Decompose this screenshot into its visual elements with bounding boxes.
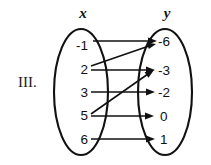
range-node--3: -3 <box>158 63 170 78</box>
mapping-diagram-canvas: III. x y <box>0 0 211 165</box>
range-node-values: -6 -3 -2 0 1 <box>158 34 170 147</box>
arrow-5-to-0 <box>91 113 154 120</box>
domain-header-x: x <box>78 5 87 21</box>
domain-node--1: -1 <box>76 38 88 53</box>
domain-node-6: 6 <box>80 132 88 147</box>
mapping-diagram: III. x y <box>0 0 211 165</box>
mapping-arrows <box>91 38 157 143</box>
domain-node-values: -1 2 3 5 6 <box>76 38 88 147</box>
domain-node-5: 5 <box>80 108 88 123</box>
range-node--6: -6 <box>158 34 170 49</box>
domain-node-3: 3 <box>80 85 88 100</box>
range-node--2: -2 <box>158 85 170 100</box>
range-header-y: y <box>162 5 171 21</box>
domain-node-2: 2 <box>80 62 88 77</box>
arrow-2-to--6 <box>91 43 156 66</box>
range-node-0: 0 <box>160 109 168 124</box>
range-node-1: 1 <box>160 132 168 147</box>
figure-label: III. <box>18 74 37 90</box>
